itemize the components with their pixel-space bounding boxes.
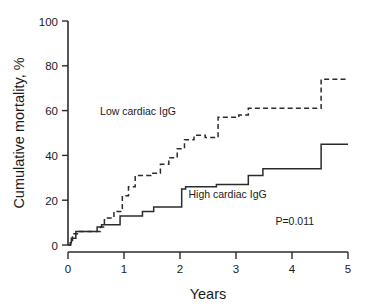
y-tick-label-80: 80: [45, 60, 58, 72]
p-value-annotation: P=0.011: [275, 215, 314, 227]
x-tick-label-4: 4: [289, 263, 296, 275]
y-tick-label-100: 100: [39, 16, 58, 28]
series-label-low-cardiac-igg: Low cardiac IgG: [100, 105, 176, 117]
y-axis-title: Cumulative mortality, %: [11, 57, 27, 208]
y-tick-label-60: 60: [45, 105, 58, 117]
chart-figure: 100 80 60 40 20 0 0 1 2 3 4 5 Cumulative…: [0, 0, 369, 308]
x-tick-label-2: 2: [177, 263, 183, 275]
x-axis-title: Years: [190, 286, 227, 302]
x-axis-ticks: [68, 252, 348, 259]
x-tick-label-3: 3: [233, 263, 239, 275]
y-tick-label-40: 40: [45, 150, 58, 162]
series-label-high-cardiac-igg: High cardiac IgG: [188, 188, 266, 200]
y-tick-label-0: 0: [52, 240, 58, 252]
y-axis-ticks: [62, 21, 68, 245]
y-tick-label-20: 20: [45, 195, 58, 207]
x-tick-label-5: 5: [345, 263, 351, 275]
x-tick-label-0: 0: [65, 263, 71, 275]
x-tick-label-1: 1: [121, 263, 127, 275]
cumulative-mortality-chart: 100 80 60 40 20 0 0 1 2 3 4 5 Cumulative…: [0, 0, 369, 308]
